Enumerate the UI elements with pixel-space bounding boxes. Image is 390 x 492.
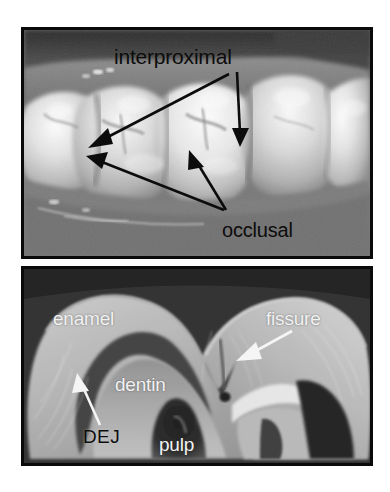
panel-occlusal-photo: interproximal occlusal (21, 27, 373, 259)
panel-tooth-cross-section: enamel fissure dentin DEJ pulp (21, 266, 373, 466)
label-fissure: fissure (266, 309, 321, 328)
label-enamel: enamel (53, 309, 114, 328)
label-dentin: dentin (115, 375, 166, 394)
label-occlusal: occlusal (222, 220, 293, 240)
figure-root: interproximal occlusal (0, 0, 390, 492)
label-interproximal: interproximal (114, 46, 232, 67)
label-dej: DEJ (83, 427, 120, 446)
tooth-cross-section-image (24, 269, 370, 463)
label-pulp: pulp (159, 435, 194, 454)
